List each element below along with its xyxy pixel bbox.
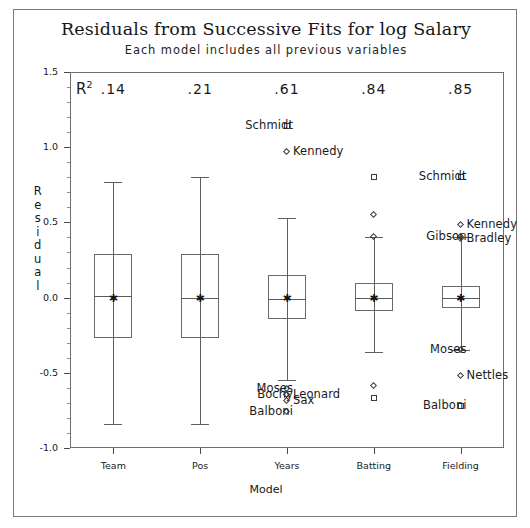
x-axis-tick: [461, 448, 462, 454]
y-axis-minor-tick: [67, 192, 70, 193]
x-axis-label: Model: [14, 483, 518, 496]
outlier-square-marker: [371, 395, 377, 401]
boxplot-mean-marker: ✱: [277, 298, 297, 299]
x-axis-tick-label: Fielding: [421, 460, 501, 471]
x-axis-tick-label: Team: [73, 460, 153, 471]
y-axis-label-char: i: [30, 226, 46, 240]
boxplot-mean-marker: ✱: [190, 298, 210, 299]
outlier-label: Kennedy: [293, 144, 344, 158]
x-axis-tick-label: Batting: [334, 460, 414, 471]
outlier-label: Sax: [293, 393, 314, 407]
outlier-label: Schmidt: [245, 118, 293, 132]
y-axis-minor-tick: [67, 132, 70, 133]
outlier-square-marker: [371, 174, 377, 180]
boxplot-mean-marker: ✱: [364, 298, 384, 299]
y-axis-minor-tick: [67, 433, 70, 434]
outlier-label: Moses: [430, 342, 467, 356]
y-axis-tick-label: 0.0: [32, 292, 58, 303]
y-axis-tick-label: -0.5: [32, 367, 58, 378]
boxplot-mean-marker: ✱: [451, 298, 471, 299]
y-axis-minor-tick: [67, 313, 70, 314]
y-axis-tick-label: -1.0: [32, 442, 58, 453]
y-axis-label-char: R: [30, 185, 46, 199]
x-axis-tick: [113, 448, 114, 454]
y-axis-minor-tick: [67, 343, 70, 344]
y-axis-minor-tick: [67, 237, 70, 238]
outlier-label: Bradley: [467, 231, 512, 245]
y-axis-minor-tick: [67, 162, 70, 163]
x-axis-tick-label: Years: [247, 460, 327, 471]
outlier-label: Balboni: [249, 404, 293, 418]
y-axis-label-char: u: [30, 253, 46, 267]
boxplot-whisker-cap: [365, 352, 383, 353]
y-axis-minor-tick: [67, 87, 70, 88]
figure-canvas: Residuals from Successive Fits for log S…: [13, 9, 517, 517]
y-axis-minor-tick: [67, 403, 70, 404]
y-axis-tick-label: 1.5: [32, 66, 58, 77]
y-axis-minor-tick: [67, 328, 70, 329]
r2-value: .21: [165, 81, 235, 97]
x-axis-tick: [287, 448, 288, 454]
y-axis-tick: [64, 373, 70, 374]
boxplot-whisker-cap: [104, 424, 122, 425]
outlier-label: Nettles: [467, 368, 509, 382]
boxplot-whisker-cap: [191, 424, 209, 425]
y-axis-tick: [64, 222, 70, 223]
y-axis-minor-tick: [67, 102, 70, 103]
y-axis-minor-tick: [67, 358, 70, 359]
y-axis-minor-tick: [67, 117, 70, 118]
chart-title: Residuals from Successive Fits for log S…: [14, 19, 518, 39]
y-axis-tick: [64, 298, 70, 299]
y-axis-label-char: e: [30, 199, 46, 213]
y-axis-tick: [64, 147, 70, 148]
y-axis-minor-tick: [67, 283, 70, 284]
y-axis-minor-tick: [67, 268, 70, 269]
x-axis-tick: [200, 448, 201, 454]
outlier-label: Schmidt: [419, 169, 467, 183]
y-axis-minor-tick: [67, 252, 70, 253]
r2-value: .14: [78, 81, 148, 97]
y-axis-tick-label: 1.0: [32, 141, 58, 152]
r2-value: .61: [252, 81, 322, 97]
outlier-label: Balboni: [423, 398, 467, 412]
y-axis-minor-tick: [67, 207, 70, 208]
y-axis-tick-label: 0.5: [32, 216, 58, 227]
boxplot-whisker-cap: [191, 177, 209, 178]
chart-subtitle: Each model includes all previous variabl…: [14, 43, 518, 57]
y-axis-label-char: d: [30, 239, 46, 253]
y-axis-minor-tick: [67, 388, 70, 389]
r2-value: .85: [426, 81, 496, 97]
boxplot-whisker-cap: [104, 182, 122, 183]
y-axis-tick: [64, 72, 70, 73]
y-axis-tick: [64, 448, 70, 449]
y-axis-label-char: a: [30, 266, 46, 280]
y-axis-label: R e s i d u a l: [30, 185, 46, 293]
r2-value: .84: [339, 81, 409, 97]
x-axis-tick: [374, 448, 375, 454]
y-axis-minor-tick: [67, 177, 70, 178]
outlier-label: Kennedy: [467, 217, 518, 231]
boxplot-mean-marker: ✱: [103, 298, 123, 299]
y-axis-minor-tick: [67, 418, 70, 419]
boxplot-whisker-cap: [278, 218, 296, 219]
x-axis-tick-label: Pos: [160, 460, 240, 471]
